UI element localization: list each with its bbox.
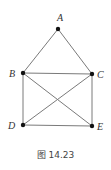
graph-edges (23, 29, 92, 126)
edge-c-d (23, 74, 92, 125)
graph-nodes (21, 27, 94, 128)
vertex-label-d: D (7, 120, 16, 131)
vertex-label-b: B (9, 68, 15, 79)
edge-b-c (23, 73, 92, 74)
edge-a-c (58, 29, 92, 74)
vertex-a (56, 27, 60, 31)
vertex-b (21, 71, 25, 75)
figure-caption: 图 14.23 (0, 148, 111, 161)
vertex-c (90, 72, 94, 76)
edge-a-b (23, 29, 58, 73)
vertex-label-a: A (56, 12, 64, 23)
vertex-label-c: C (97, 69, 104, 80)
edge-d-e (23, 125, 92, 126)
vertex-d (21, 123, 25, 127)
vertex-e (90, 124, 94, 128)
graph-diagram: ABCDE (0, 0, 111, 170)
vertex-label-e: E (96, 121, 103, 132)
